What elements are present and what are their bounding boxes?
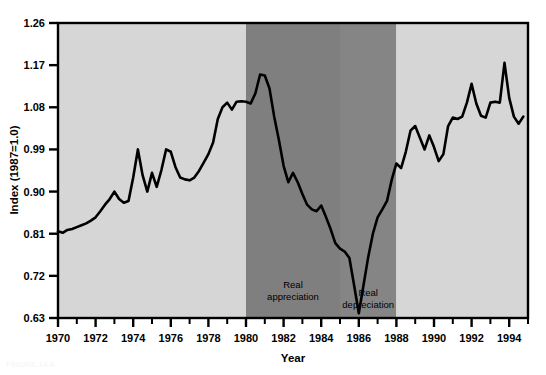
x-tick-label-1986: 1986 — [347, 332, 371, 344]
x-tick-label-1972: 1972 — [83, 332, 107, 344]
x-tick-label-1978: 1978 — [196, 332, 220, 344]
region-real-appreciation — [246, 23, 340, 318]
x-tick-label-1994: 1994 — [497, 332, 522, 344]
x-tick-label-1976: 1976 — [159, 332, 183, 344]
y-tick-label-0.99: 0.99 — [24, 143, 45, 155]
figure-caption: FIGURE 14-8 — [6, 360, 116, 370]
y-tick-label-1.17: 1.17 — [24, 59, 45, 71]
x-tick-label-1984: 1984 — [309, 332, 334, 344]
x-tick-label-1974: 1974 — [121, 332, 146, 344]
chart-canvas: RealappreciationRealdepreciation 0.630.7… — [0, 0, 546, 375]
y-tick-label-1.26: 1.26 — [24, 17, 45, 29]
region-label-real-depreciation-line2: depreciation — [342, 299, 394, 310]
shaded-regions — [58, 23, 528, 318]
x-tick-label-1970: 1970 — [46, 332, 70, 344]
x-axis-title: Year — [281, 352, 306, 364]
y-tick-label-0.90: 0.90 — [24, 186, 45, 198]
y-tick-label-0.81: 0.81 — [24, 228, 45, 240]
region-post-period — [396, 23, 528, 318]
x-tick-label-1988: 1988 — [384, 332, 408, 344]
region-label-real-appreciation-line1: Real — [283, 279, 303, 290]
y-tick-label-0.63: 0.63 — [24, 312, 45, 324]
x-tick-label-1980: 1980 — [234, 332, 258, 344]
region-pre-period — [58, 23, 246, 318]
region-real-depreciation — [340, 23, 396, 318]
y-tick-label-1.08: 1.08 — [24, 101, 45, 113]
y-axis-title: Index (1987=1.0) — [8, 125, 20, 214]
x-tick-label-1990: 1990 — [422, 332, 446, 344]
y-tick-label-0.72: 0.72 — [24, 270, 45, 282]
x-tick-label-1992: 1992 — [459, 332, 483, 344]
figure-container: RealappreciationRealdepreciation 0.630.7… — [0, 0, 546, 375]
x-tick-label-1982: 1982 — [271, 332, 295, 344]
region-label-real-appreciation-line2: appreciation — [267, 291, 319, 302]
